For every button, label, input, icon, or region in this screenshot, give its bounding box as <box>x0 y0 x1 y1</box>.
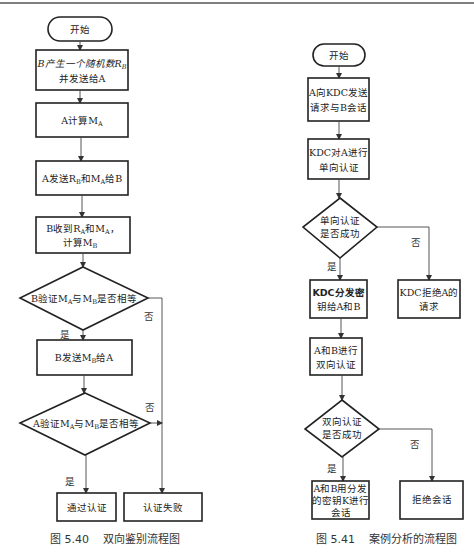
right-step2-line1: KDC对A进行 <box>309 147 368 158</box>
right-step4-line2: 双向认证 <box>316 359 356 370</box>
left-step-receive-compute-mb: B收到RA和MA， 计算MB <box>36 217 130 253</box>
right-decision1-no-label: 否 <box>411 237 421 248</box>
left-decision1-no-label: 否 <box>144 311 154 322</box>
step2-text: A计算M <box>60 115 98 126</box>
right-decision2-yes-label: 是 <box>327 463 337 474</box>
left-step-send-rb-ma: A发送RB和MA给B <box>36 161 128 195</box>
step3-end: 给B <box>105 173 122 184</box>
right-step5-line3: 会话 <box>331 507 351 518</box>
left-decision2-no-label: 否 <box>145 402 155 413</box>
right-decision2-line2: 是否成功 <box>322 429 362 440</box>
right-decision2-no-label: 否 <box>410 439 420 450</box>
result-fail-label: 认证失败 <box>143 502 183 513</box>
right-step1-line2: 请求与B会话 <box>310 102 367 113</box>
left-result-fail: 认证失败 <box>124 493 202 521</box>
right-decision1-line2: 是否成功 <box>320 228 360 239</box>
right-decision2-line1: 双向认证 <box>322 416 362 427</box>
right-decision1-line1: 单向认证 <box>320 215 360 226</box>
step5-text: B发送M <box>55 352 92 363</box>
right-step1-line1: A向KDC发送 <box>308 87 368 98</box>
decision1-pre: B验证M <box>31 293 68 304</box>
left-step-generate-random: B产生一个随机数RB 并发送给A <box>36 50 128 90</box>
decision2-end: 是否相等 <box>99 418 139 429</box>
right-step-kdc-auth: KDC对A进行 单向认证 <box>308 139 369 179</box>
left-step-send-mb: B发送MB给A <box>37 340 132 375</box>
left-figure-caption: 图 5.40 双向鉴别流程图 <box>50 532 180 546</box>
right-reject2-label: 拒绝会话 <box>412 494 452 505</box>
decision1-mid: 与M <box>72 293 92 304</box>
step1-text-line2: 并发送给A <box>59 73 106 84</box>
right-decision1-yes-label: 是 <box>327 261 337 272</box>
right-reject1-line1: KDC拒绝A的 <box>400 287 459 298</box>
left-start-label: 开始 <box>70 24 90 35</box>
right-start-node: 开始 <box>313 44 365 66</box>
right-reject1-line2: 请求 <box>419 301 439 312</box>
left-result-pass: 通过认证 <box>57 493 116 521</box>
left-step-compute-ma: A计算MA <box>36 103 128 137</box>
flowcharts-canvas: 开始 B产生一个随机数RB 并发送给A A计算MA A发送RB和MA给B B收到… <box>0 0 474 555</box>
decision2-pre: A验证M <box>32 418 70 429</box>
right-flowchart: 开始 A向KDC发送 请求与B会话 KDC对A进行 单向认证 单向认证 是否成功… <box>303 44 463 546</box>
right-step3-line1: KDC分发密 <box>312 287 364 298</box>
right-start-label: 开始 <box>329 50 349 61</box>
right-step-request-session: A向KDC发送 请求与B会话 <box>308 78 369 121</box>
left-decision-a-verify: A验证MA与MB是否相等 <box>20 393 150 455</box>
step5-end: 给A <box>96 352 113 363</box>
result-pass-label: 通过认证 <box>67 502 107 513</box>
step4-text: B收到R <box>46 223 81 234</box>
step2-subscript: A <box>97 120 103 128</box>
right-step2-line2: 单向认证 <box>319 162 359 173</box>
right-decision-one-way: 单向认证 是否成功 <box>303 198 377 258</box>
right-figure-caption: 图 5.41 案例分析的流程图 <box>316 532 457 546</box>
right-decision-mutual: 双向认证 是否成功 <box>305 400 379 457</box>
right-step-mutual-auth: A和B进行 双向认证 <box>310 338 362 375</box>
step3-text: A发送R <box>41 173 77 184</box>
decision1-end: 是否相等 <box>97 293 137 304</box>
left-flowchart: 开始 B产生一个随机数RB 并发送给A A计算MA A发送RB和MA给B B收到… <box>20 17 202 546</box>
right-step5-line2: 的密钥K进行 <box>312 495 369 506</box>
step4-mid: 和M <box>85 223 105 234</box>
step3-mid: 和M <box>81 173 101 184</box>
step4-line2: 计算M <box>63 237 93 248</box>
left-start-node: 开始 <box>48 17 112 41</box>
right-step5-line1: A和B用分发 <box>313 483 368 494</box>
right-step3-line2: 钥给A和B <box>317 301 361 312</box>
right-reject-request: KDC拒绝A的 请求 <box>398 280 460 318</box>
left-decision-b-verify: B验证MA与MB是否相等 <box>20 267 148 330</box>
step4-end: ， <box>110 223 120 234</box>
step4-sub3: B <box>92 242 97 250</box>
left-decision2-yes-label: 是 <box>65 476 75 487</box>
decision2-mid: 与M <box>74 418 94 429</box>
left-decision1-yes-label: 是 <box>60 329 70 340</box>
right-step-session-with-key: A和B用分发 的密钥K进行 会话 <box>312 481 369 519</box>
step1-subscript: B <box>121 63 127 71</box>
right-reject-session: 拒绝会话 <box>400 481 463 519</box>
right-step4-line1: A和B进行 <box>313 345 358 356</box>
step1-text: B产生一个随机数R <box>37 58 122 69</box>
right-step-distribute-key: KDC分发密 钥给A和B <box>310 280 367 318</box>
